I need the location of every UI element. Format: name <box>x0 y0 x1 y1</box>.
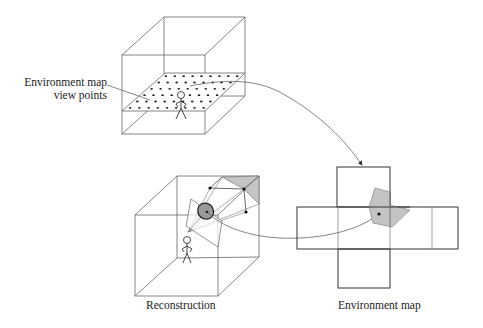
viewpoint-dot <box>165 75 168 77</box>
viewpoint-dot <box>218 75 221 77</box>
viewpoints-label-line1: Environment map <box>20 76 107 89</box>
viewpoints-label: Environment map view points <box>20 76 107 102</box>
viewpoint-dot <box>152 94 155 96</box>
curve-blob-to-envmap <box>207 212 379 238</box>
viewpoint-dot <box>175 107 178 109</box>
viewpoints-label-line2: view points <box>20 89 107 102</box>
viewpoint-dot <box>157 82 160 84</box>
viewpoint-dot <box>154 101 157 103</box>
viewpoint-dot <box>147 107 150 109</box>
viewpoint-dot <box>143 94 146 96</box>
viewpoint-dot <box>182 75 185 77</box>
viewpoint-dot <box>205 88 208 90</box>
stick-figure-bottom <box>182 237 192 264</box>
viewpoint-dot <box>227 75 230 77</box>
viewpoint-dot <box>129 107 132 109</box>
viewpoint-dot <box>195 88 198 90</box>
viewpoint-dot <box>193 107 196 109</box>
viewpoint-dot <box>223 88 226 90</box>
viewpoint-dot <box>202 107 205 109</box>
viewpoint-dot <box>186 88 189 90</box>
envmap-sample-point <box>377 212 380 215</box>
diagram-canvas <box>0 0 483 328</box>
viewpoint-dot <box>189 94 192 96</box>
environment-map-cross <box>297 167 458 288</box>
viewpoint-dot <box>191 101 194 103</box>
viewpoint-dot <box>175 82 178 84</box>
viewpoint-dot <box>229 82 232 84</box>
viewpoint-dot <box>216 94 219 96</box>
viewpoint-dot <box>136 101 139 103</box>
viewpoint-dot <box>161 94 164 96</box>
viewpoint-dot <box>191 75 194 77</box>
projected-blob <box>198 203 214 219</box>
viewpoint-dot <box>207 94 210 96</box>
bottom-cube <box>135 176 259 296</box>
viewpoint-dot <box>173 101 176 103</box>
viewpoint-dot <box>168 88 171 90</box>
viewpoint-dot <box>150 88 153 90</box>
viewpoint-dot <box>209 101 212 103</box>
viewpoint-dot <box>170 94 173 96</box>
viewpoint-dot <box>174 75 177 77</box>
viewpoint-dot <box>184 82 187 84</box>
environment-map-label: Environment map <box>338 299 421 311</box>
viewpoint-dot <box>193 82 196 84</box>
reconstruction-label: Reconstruction <box>146 299 216 311</box>
viewpoint-dot <box>166 82 169 84</box>
viewpoint-dot <box>157 107 160 109</box>
viewpoint-dot <box>236 75 239 77</box>
viewpoint-dot <box>166 107 169 109</box>
viewpoint-dot <box>163 101 166 103</box>
viewpoint-dot <box>145 101 148 103</box>
viewpoint-dot <box>138 107 141 109</box>
viewpoint-dot <box>200 101 203 103</box>
viewpoint-dot <box>209 75 212 77</box>
viewpoint-dot <box>159 88 162 90</box>
viewpoint-dot <box>198 94 201 96</box>
viewpoint-dot <box>177 88 180 90</box>
viewpoint-dot <box>200 75 203 77</box>
viewpoint-dot <box>214 88 217 90</box>
